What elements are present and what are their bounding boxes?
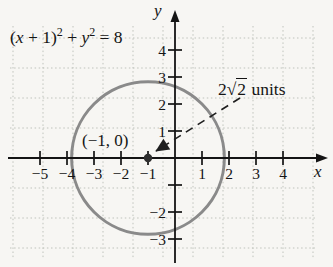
axis-ticks: −5−4−3−2−112344321−2−3 [32, 42, 287, 248]
y-tick-label: −3 [150, 231, 167, 248]
y-axis-label: y [154, 1, 162, 21]
x-tick-label: −4 [59, 165, 76, 182]
x-tick-label: −1 [140, 165, 157, 182]
x-tick-label: −2 [113, 165, 130, 182]
equation-text: + [63, 27, 82, 47]
radius-dashed-leader-line [156, 98, 240, 151]
x-tick-label: 2 [225, 165, 233, 182]
x-tick-label: 4 [279, 165, 287, 182]
y-tick-label: 4 [158, 42, 166, 59]
radius-length-label: 2√2 units [218, 79, 286, 100]
y-tick-label: 3 [158, 69, 166, 86]
x-tick-label: 3 [252, 165, 260, 182]
equation-text: + 1) [24, 27, 57, 47]
axes [8, 10, 328, 263]
radius-units-text: units [247, 79, 285, 99]
radius-radicand: 2 [236, 78, 247, 99]
y-tick-label: −2 [150, 204, 167, 221]
y-tick-label: 1 [158, 123, 166, 140]
equation-text: = 8 [95, 27, 122, 47]
square-root-symbol: √ [227, 79, 237, 99]
y-tick-label: 2 [158, 96, 166, 113]
circle-equation-label: (x + 1)2 + y2 = 8 [10, 25, 123, 48]
center-point-label: (−1, 0) [82, 131, 128, 151]
radius-coefficient: 2 [218, 79, 227, 99]
equation-var-x: x [16, 27, 24, 47]
x-tick-label: −5 [32, 165, 49, 182]
y-axis-arrowhead [171, 10, 180, 22]
grid-lines [10, 26, 316, 258]
x-tick-label: 1 [198, 165, 206, 182]
circle-graph-figure: −5−4−3−2−112344321−2−3 (x + 1)2 + y2 = 8… [0, 0, 333, 267]
center-point-dot [144, 154, 152, 162]
x-tick-label: −3 [86, 165, 103, 182]
x-axis-label: x [314, 162, 322, 182]
